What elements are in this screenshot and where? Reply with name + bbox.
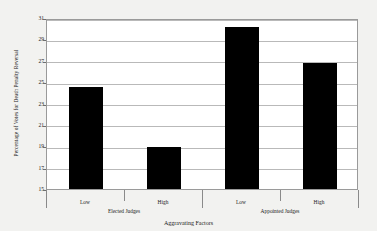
x-axis-category-label: High bbox=[133, 200, 193, 205]
bar-series bbox=[47, 20, 357, 189]
y-axis-tick-label: 31 bbox=[24, 16, 44, 22]
y-axis-tick-label: 25 bbox=[24, 80, 44, 86]
x-axis-category-label: High bbox=[289, 200, 349, 205]
x-axis-tick-mark bbox=[280, 190, 281, 201]
bar bbox=[147, 147, 181, 189]
x-axis-category-label: Low bbox=[55, 200, 115, 205]
x-axis-group-tick bbox=[358, 201, 359, 208]
y-axis-tick-label: 23 bbox=[24, 102, 44, 108]
y-axis-tick-label: 27 bbox=[24, 59, 44, 65]
x-axis-group-tick bbox=[202, 201, 203, 208]
bar-chart-figure: Percentage of Votes for Death Penalty Re… bbox=[0, 0, 377, 231]
bar bbox=[225, 27, 259, 189]
y-axis-tick-label: 29 bbox=[24, 37, 44, 43]
bar bbox=[69, 87, 103, 189]
y-axis-tick-label: 17 bbox=[24, 166, 44, 172]
x-axis-category-label: Low bbox=[211, 200, 271, 205]
x-axis-group-label: Appointed Judges bbox=[230, 209, 330, 214]
x-axis-group-label: Elected Judges bbox=[74, 209, 174, 214]
x-axis-tick-mark bbox=[124, 190, 125, 201]
x-axis-group-tick bbox=[46, 201, 47, 208]
x-axis-area: Aggravating Factors LowHighLowHighElecte… bbox=[0, 190, 377, 231]
x-axis-tick-mark bbox=[358, 190, 359, 201]
plot-area bbox=[46, 19, 358, 190]
x-axis-tick-mark bbox=[46, 190, 47, 201]
x-axis-title: Aggravating Factors bbox=[0, 220, 377, 226]
y-axis-tick-label: 19 bbox=[24, 144, 44, 150]
y-axis-tick-label: 21 bbox=[24, 123, 44, 129]
x-axis-tick-mark bbox=[202, 190, 203, 201]
bar bbox=[303, 63, 337, 189]
